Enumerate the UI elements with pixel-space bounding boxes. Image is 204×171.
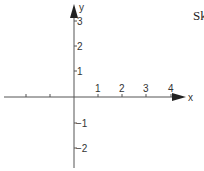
x-axis-arrow-icon: [172, 93, 186, 101]
x-tick-label: 4: [168, 83, 174, 94]
y-axis-label: y: [79, 2, 84, 13]
y-tick-label: −1: [76, 118, 88, 129]
x-tick-label: 3: [143, 83, 149, 94]
y-tick-label: −2: [76, 143, 88, 154]
x-axis-label: x: [188, 92, 193, 103]
coordinate-plane: x y 1 2 3 4 3 2 1 −1 −2 Sk: [0, 0, 204, 171]
y-tick-label: 3: [77, 16, 83, 27]
y-tick-label: 2: [77, 41, 83, 52]
y-ticks: 3 2 1 −1 −2: [74, 16, 88, 154]
x-ticks: 1 2 3 4: [26, 83, 174, 97]
x-tick-label: 1: [95, 83, 101, 94]
title-fragment: Sk: [193, 8, 204, 23]
x-tick-label: 2: [119, 83, 125, 94]
y-tick-label: 1: [77, 66, 83, 77]
